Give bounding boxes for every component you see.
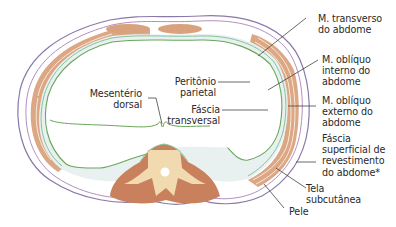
label-tela-subcutanea: Tela subcutânea (306, 183, 361, 205)
label-fascia-superficial: Fáscia superficial de revestimento do ab… (322, 133, 385, 178)
rectus-abdominis-right (158, 24, 202, 34)
abdominal-wall-diagram: M. transverso do abdome M. oblíquo inter… (0, 0, 396, 227)
label-obliquo-externo: M. oblíquo externo do abdome (322, 95, 373, 129)
label-mesenterio-dorsal: Mesentério dorsal (82, 88, 142, 110)
label-transverso-abdome: M. transverso do abdome (318, 13, 382, 35)
label-obliquo-interno: M. oblíquo interno do abdome (322, 54, 371, 88)
rectus-abdominis-left (106, 24, 150, 34)
label-peritonio-parietal: Peritônio parietal (166, 76, 216, 98)
label-pele: Pele (289, 206, 309, 217)
spinal-canal (161, 168, 170, 177)
label-fascia-transversal: Fáscia transversal (150, 104, 220, 126)
